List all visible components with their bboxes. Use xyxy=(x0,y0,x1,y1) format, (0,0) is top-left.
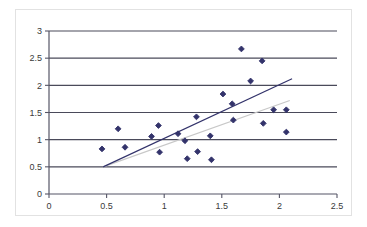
chart-container: 00.511.522.5300.511.522.5 xyxy=(15,9,352,216)
data-point xyxy=(230,117,236,123)
y-tick-label-6: 3 xyxy=(37,26,42,36)
y-tick-label-4: 2 xyxy=(37,81,42,91)
y-tick-label-5: 2.5 xyxy=(29,53,42,63)
y-tick-label-3: 1.5 xyxy=(29,108,42,118)
data-point xyxy=(195,149,201,155)
data-point xyxy=(260,120,266,126)
x-tick-label-3: 1.5 xyxy=(216,201,229,211)
x-tick-label-4: 2 xyxy=(277,201,282,211)
data-point xyxy=(283,129,289,135)
data-point xyxy=(248,78,254,84)
y-tick-label-2: 1 xyxy=(37,135,42,145)
regression-line-light xyxy=(103,101,290,167)
x-tick-label-5: 2.5 xyxy=(331,201,344,211)
data-point xyxy=(271,107,277,113)
y-tick-label-1: 0.5 xyxy=(29,162,42,172)
data-point xyxy=(283,107,289,113)
data-point xyxy=(259,58,265,64)
data-point xyxy=(184,156,190,162)
data-point xyxy=(207,133,213,139)
x-tick-label-0: 0 xyxy=(46,201,51,211)
data-point xyxy=(99,146,105,152)
data-point xyxy=(194,114,200,120)
data-point xyxy=(115,126,121,132)
scatter-plot: 00.511.522.5300.511.522.5 xyxy=(16,10,351,215)
data-point xyxy=(122,144,128,150)
x-tick-label-2: 1 xyxy=(162,201,167,211)
y-tick-label-0: 0 xyxy=(37,189,42,199)
data-point xyxy=(238,46,244,52)
data-point xyxy=(220,91,226,97)
x-tick-label-1: 0.5 xyxy=(100,201,113,211)
data-point xyxy=(157,149,163,155)
data-point xyxy=(149,134,155,140)
data-point xyxy=(156,123,162,129)
data-point xyxy=(209,157,215,163)
